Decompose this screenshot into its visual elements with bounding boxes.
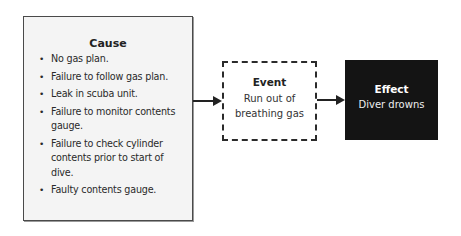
event-text: Run out of breathing gas: [224, 91, 315, 121]
effect-title: Effect: [345, 83, 438, 95]
arrow-cause-to-event-icon: [193, 96, 222, 106]
event-title: Event: [224, 76, 315, 88]
arrow-event-to-effect-icon: [317, 95, 345, 105]
effect-text: Diver drowns: [345, 99, 438, 110]
event-box: Event Run out of breathing gas: [222, 61, 317, 141]
effect-box: Effect Diver drowns: [345, 60, 438, 140]
